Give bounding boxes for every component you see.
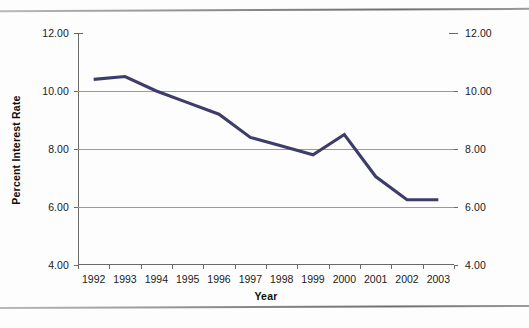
y-tick-label-right-12.00: 12.00 — [465, 27, 492, 39]
x-tick-2 — [141, 265, 142, 269]
x-tick-0 — [78, 265, 79, 269]
y-tick-label-right-10.00: 10.00 — [465, 85, 492, 97]
x-tick-label-2001: 2001 — [364, 273, 387, 285]
series-line-chart — [78, 33, 454, 265]
x-tick-3 — [172, 265, 173, 269]
x-tick-5 — [235, 265, 236, 269]
chart-figure: Percent Interest Rate 12.0010.008.006.00… — [0, 0, 529, 328]
x-tick-11 — [423, 265, 424, 269]
x-axis-title: Year — [255, 290, 278, 302]
x-tick-10 — [391, 265, 392, 269]
x-tick-6 — [266, 265, 267, 269]
y-tick-label-right-4.00: 4.00 — [465, 259, 486, 271]
y-axis-title: Percent Interest Rate — [10, 95, 22, 204]
x-tick-12 — [454, 265, 455, 269]
x-tick-label-2003: 2003 — [427, 273, 450, 285]
y-tick-right-10.00 — [454, 91, 458, 92]
x-tick-label-1996: 1996 — [207, 273, 230, 285]
y-tick-label-right-6.00: 6.00 — [465, 201, 486, 213]
series-line-percent-interest-rate — [94, 77, 439, 200]
x-tick-9 — [360, 265, 361, 269]
x-tick-label-1992: 1992 — [82, 273, 105, 285]
y-tick-label-left-10.00: 10.00 — [42, 85, 69, 97]
x-tick-1 — [109, 265, 110, 269]
x-tick-7 — [297, 265, 298, 269]
y-tick-label-left-12.00: 12.00 — [42, 27, 69, 39]
y-tick-label-left-4.00: 4.00 — [48, 259, 69, 271]
x-tick-label-1999: 1999 — [301, 273, 324, 285]
y-tick-label-right-8.00: 8.00 — [465, 143, 486, 155]
y-tick-label-left-6.00: 6.00 — [48, 201, 69, 213]
x-tick-label-1993: 1993 — [113, 273, 136, 285]
x-tick-label-1994: 1994 — [145, 273, 168, 285]
page-rule-bottom-divider — [0, 305, 529, 309]
x-tick-label-2002: 2002 — [395, 273, 418, 285]
y-tick-right-8.00 — [454, 149, 458, 150]
x-tick-label-2000: 2000 — [333, 273, 356, 285]
x-tick-8 — [329, 265, 330, 269]
y-tick-right-12.00 — [454, 33, 458, 34]
x-tick-4 — [203, 265, 204, 269]
y-tick-label-left-8.00: 8.00 — [48, 143, 69, 155]
x-tick-label-1997: 1997 — [239, 273, 262, 285]
y-tick-right-6.00 — [454, 207, 458, 208]
x-tick-label-1998: 1998 — [270, 273, 293, 285]
page-rule-top-divider — [0, 8, 529, 12]
x-tick-label-1995: 1995 — [176, 273, 199, 285]
plot-area: 12.0010.008.006.004.00 12.0010.008.006.0… — [78, 33, 454, 265]
